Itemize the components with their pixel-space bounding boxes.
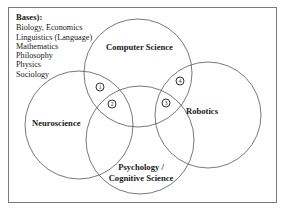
label-psychology-line2: Cognitive Science <box>108 173 174 184</box>
marker-4: 4 <box>176 77 185 86</box>
marker-2: 2 <box>108 100 117 109</box>
bases-item: Sociology <box>16 70 92 79</box>
label-psychology: Psychology / Cognitive Science <box>108 162 174 184</box>
marker-1: 1 <box>96 83 105 92</box>
bases-item: Philosophy <box>16 51 92 60</box>
bases-title: Bases): <box>16 13 92 22</box>
bases-item: Biology, Economics <box>16 23 92 32</box>
label-computer-science: Computer Science <box>106 42 173 53</box>
label-robotics: Robotics <box>186 106 218 117</box>
label-psychology-line1: Psychology / <box>108 162 174 173</box>
bases-list: Bases): Biology, Economics Linguistics (… <box>16 13 92 79</box>
bases-item: Physics <box>16 60 92 69</box>
marker-3: 3 <box>162 99 171 108</box>
bases-item: Linguistics (Language) <box>16 33 92 42</box>
bases-item: Mathematics <box>16 42 92 51</box>
label-neuroscience: Neuroscience <box>32 118 81 129</box>
